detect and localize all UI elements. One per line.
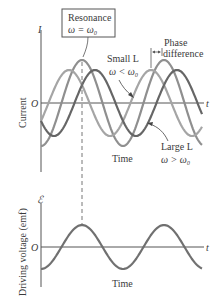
current-plot: Resonance ω = ω₀ I O t Time Current Smal… [17, 9, 209, 226]
emf-t-label: t [206, 242, 209, 253]
current-symbol-label: I [37, 24, 42, 35]
large-l-pointer [150, 124, 168, 141]
phase-label: Phase [164, 37, 188, 48]
resonance-diagram: Resonance ω = ω₀ I O t Time Current Smal… [0, 0, 220, 303]
current-t-label: t [206, 98, 209, 109]
current-origin-label: O [31, 98, 38, 109]
resonance-label: Resonance [68, 12, 112, 23]
resonance-pointer [83, 37, 88, 57]
emf-time-label: Time [112, 278, 133, 289]
large-l-condition: ω > ω₀ [161, 154, 191, 165]
small-l-label: Small L [107, 53, 139, 64]
emf-origin-label: O [31, 242, 38, 253]
phase-arrowhead-left [152, 51, 155, 54]
emf-symbol-label: ℰ [37, 194, 44, 205]
large-l-label: Large L [161, 141, 193, 152]
current-side-label: Current [17, 97, 28, 128]
phase-arrowhead-right [158, 51, 161, 54]
emf-plot: ℰ O t Time Driving voltage (emf) [17, 194, 209, 296]
phase-difference-label: difference [163, 48, 204, 59]
current-time-label: Time [112, 153, 133, 164]
small-l-condition: ω < ω₀ [109, 66, 139, 77]
emf-side-label: Driving voltage (emf) [17, 208, 29, 296]
resonance-condition: ω = ω₀ [68, 24, 98, 35]
